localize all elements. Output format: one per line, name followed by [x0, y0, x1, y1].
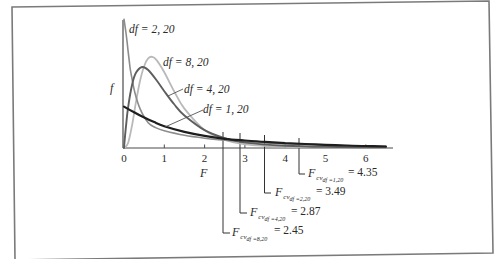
tick-label-4: 4	[282, 152, 288, 164]
cv-df: df =1,20	[323, 177, 344, 183]
label-df-8-20-text: df = 8, 20	[163, 56, 209, 69]
cv-label-df-1-20: Fcvdf =1,20 = 4.35	[307, 166, 378, 183]
label-df-1-20: df = 1, 20	[203, 103, 249, 116]
y-axis-label: f	[110, 81, 115, 95]
cv-symbol-df-1-20: Fcvdf =1,20	[307, 166, 343, 183]
tick-label-3: 3	[242, 152, 248, 164]
cv-symbol-df-4-20: Fcvdf =4,20	[249, 205, 285, 222]
cv-label-df-4-20: Fcvdf =4,20 = 2.87	[249, 205, 321, 222]
cv-value-df-8-20: = 2.45	[274, 224, 304, 236]
x-tick-labels: 0 1 2 3 4 5 6	[121, 152, 369, 164]
tick-label-5: 5	[323, 152, 329, 164]
cv-label-df-8-20: Fcvdf =8,20 = 2.45	[231, 224, 304, 242]
label-df-1-20-text: df = 1, 20	[203, 103, 249, 116]
cv-value-df-2-20: = 3.49	[316, 185, 346, 197]
curve-df-8-20	[124, 57, 386, 148]
figure-frame	[12, 1, 493, 259]
cv-value-df-4-20: = 2.87	[291, 205, 321, 217]
label-df-2-20-text: df = 2, 20	[129, 23, 175, 36]
label-df-4-20-text: df = 4, 20	[184, 83, 230, 96]
tick-label-6: 6	[363, 152, 369, 164]
cv-value-df-1-20: = 4.35	[348, 166, 378, 178]
cv-df: df =8,20	[247, 236, 268, 242]
tick-label-0: 0	[121, 152, 127, 164]
cv-symbol-df-2-20: Fcvdf =2,20	[274, 185, 310, 202]
curve-df-1-20	[124, 107, 386, 147]
curve-df-2-20	[124, 19, 386, 146]
cv-symbol: F	[274, 185, 283, 199]
tick-label-1: 1	[162, 152, 168, 164]
cv-df: df =4,20	[265, 216, 286, 222]
cv-label-df-2-20: Fcvdf =2,20 = 3.49	[274, 185, 346, 202]
label-df-4-20: df = 4, 20	[184, 83, 230, 96]
cv-symbol-df-8-20: Fcvdf =8,20	[231, 225, 267, 242]
f-distribution-figure: 0 1 2 3 4 5 6 f F df = 2, 20 df = 8, 20 …	[0, 0, 497, 259]
cv-symbol: F	[231, 225, 240, 239]
curve-df-4-20	[124, 67, 386, 148]
cv-df: df =2,20	[290, 196, 311, 202]
cv-symbol: F	[307, 166, 316, 180]
x-axis-label: F	[199, 166, 208, 180]
tick-label-2: 2	[202, 152, 208, 164]
cv-line-df-8-20	[223, 132, 230, 233]
cv-symbol: F	[249, 205, 258, 219]
label-df-2-20: df = 2, 20	[129, 23, 175, 36]
label-df-8-20: df = 8, 20	[163, 56, 209, 69]
density-curves	[124, 19, 386, 148]
